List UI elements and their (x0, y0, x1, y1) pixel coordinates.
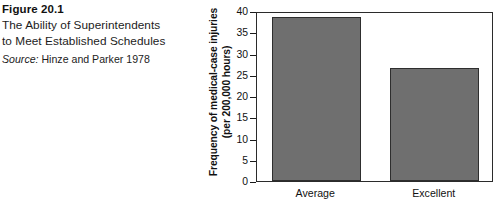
source-label: Source: (2, 53, 39, 65)
plot-area (256, 12, 493, 182)
y-tick-label: 35 (222, 28, 248, 38)
x-tick-label: Average (296, 186, 335, 200)
source-text: Hinze and Parker 1978 (41, 53, 149, 65)
bar-excellent (390, 68, 479, 181)
y-tick-label: 30 (222, 50, 248, 60)
y-tick-label: 5 (222, 156, 248, 166)
x-axis-tick-labels: AverageExcellent (256, 186, 493, 202)
y-tick-label: 10 (222, 135, 248, 145)
y-axis-label-line-1: Frequency of medical-case injuries (207, 8, 220, 176)
y-tick-label: 0 (222, 177, 248, 187)
figure-container: Figure 20.1 The Ability of Superintenden… (0, 0, 494, 206)
figure-number: Figure 20.1 (2, 2, 194, 17)
figure-source: Source: Hinze and Parker 1978 (2, 51, 194, 67)
figure-title-line-2: to Meet Established Schedules (2, 33, 194, 49)
figure-title-line-1: The Ability of Superintendents (2, 17, 194, 33)
y-tick-label: 25 (222, 71, 248, 81)
y-tick-mark (250, 182, 256, 183)
y-tick-label: 15 (222, 113, 248, 123)
y-axis-tick-labels: 0510152025303540 (222, 0, 248, 206)
figure-caption: Figure 20.1 The Ability of Superintenden… (2, 2, 194, 67)
x-tick-label: Excellent (412, 186, 455, 200)
bar-average (272, 17, 361, 181)
bar-chart: Frequency of medical-case injuries (per … (196, 0, 494, 206)
y-tick-label: 40 (222, 7, 248, 17)
y-tick-label: 20 (222, 92, 248, 102)
